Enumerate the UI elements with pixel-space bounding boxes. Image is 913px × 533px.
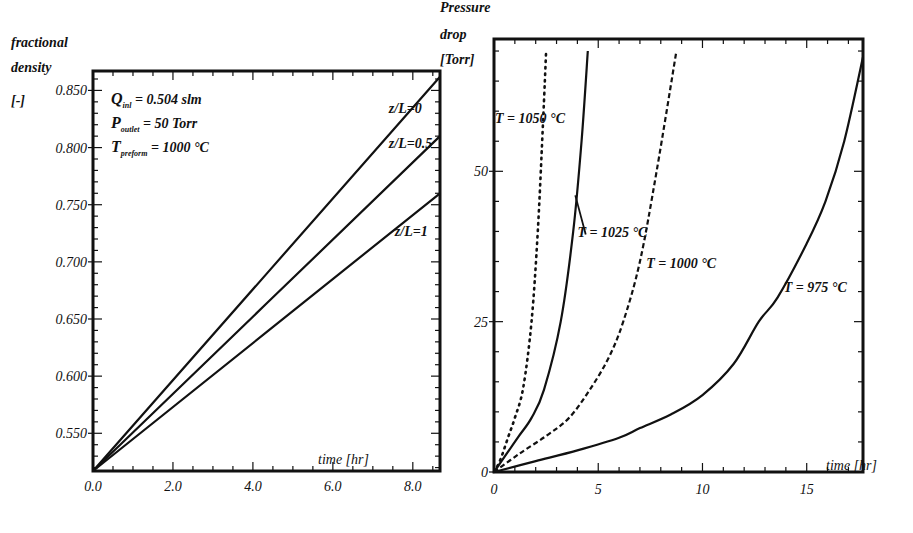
fractional-density-chart: 0.02.04.06.08.00.5500.6000.6500.7000.750… <box>11 35 440 494</box>
pressure-drop-chart: 05101502550Pressuredrop[Torr]time [hr]T … <box>440 0 877 497</box>
series-label: T = 975 °C <box>784 280 848 295</box>
series-line <box>93 136 440 471</box>
x-tick-label: 6.0 <box>324 479 342 494</box>
y-tick-label: 0.700 <box>56 255 88 270</box>
x-tick-label: 15 <box>800 482 814 497</box>
y-tick-label: 0.850 <box>56 83 88 98</box>
y-tick-label: 50 <box>474 164 488 179</box>
y-axis-label: Pressuredrop[Torr] <box>440 0 491 67</box>
y-tick-label: 0.600 <box>56 369 88 384</box>
x-axis-label: time [hr] <box>318 452 369 467</box>
x-tick-label: 2.0 <box>164 479 182 494</box>
series-label: z/L=0 <box>388 101 422 116</box>
x-tick-label: 8.0 <box>404 479 422 494</box>
parameter-text: Tpreform = 1000 °C <box>111 138 210 158</box>
y-tick-label: 0.800 <box>56 141 88 156</box>
parameter-text: Qinl = 0.504 slm <box>111 90 202 110</box>
series-line <box>93 193 440 471</box>
y-tick-label: 0 <box>481 465 488 480</box>
figure: 0.02.04.06.08.00.5500.6000.6500.7000.750… <box>0 0 913 533</box>
series-label: T = 1050 °C <box>495 111 566 126</box>
x-axis-label: time [hr] <box>826 458 877 473</box>
series-label: T = 1025 °C <box>577 225 648 240</box>
x-tick-label: 0.0 <box>84 479 102 494</box>
parameter-annotations: Qinl = 0.504 slmPoutlet = 50 TorrTprefor… <box>110 90 210 158</box>
x-tick-label: 4.0 <box>244 479 262 494</box>
axis-ticks <box>88 71 440 471</box>
parameter-text: Poutlet = 50 Torr <box>110 114 198 134</box>
y-tick-label: 0.650 <box>56 312 88 327</box>
series-label: z/L=1 <box>394 224 428 239</box>
series-label: T = 1000 °C <box>646 256 717 271</box>
series-label: z/L=0.5 <box>388 136 432 151</box>
x-tick-label: 0 <box>491 482 498 497</box>
y-tick-label: 0.750 <box>56 198 88 213</box>
x-tick-label: 10 <box>695 482 709 497</box>
y-tick-label: 25 <box>474 315 488 330</box>
y-tick-label: 0.550 <box>56 426 88 441</box>
x-tick-label: 5 <box>595 482 602 497</box>
